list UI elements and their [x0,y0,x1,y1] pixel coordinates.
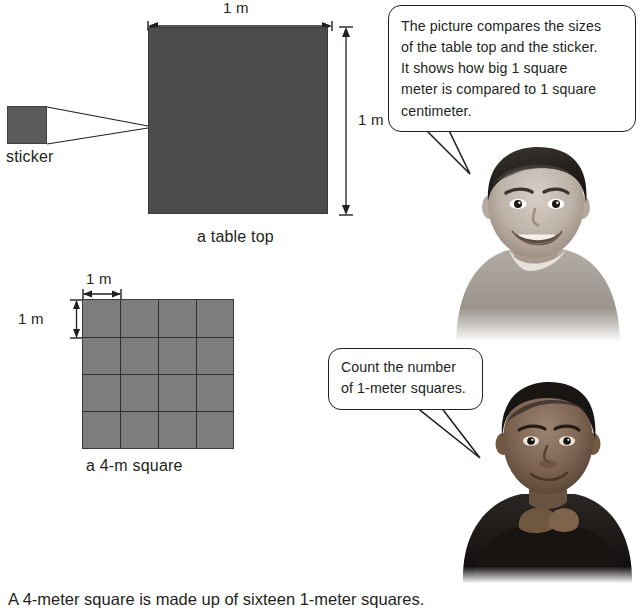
speech-bubble-one-line-3: It shows how big 1 square [401,58,624,79]
bottom-summary-sentence: A 4-meter square is made up of sixteen 1… [8,590,424,609]
speech-bubble-one-line-1: The picture compares the sizes [401,16,624,37]
grid-line-horizontal [83,374,233,375]
four-meter-square-caption: a 4-m square [86,457,183,475]
speech-bubble-two-line-2: of 1-meter squares. [341,378,472,399]
grid-cell-width-label: 1 m [86,271,112,288]
speech-bubble-one-line-5: centimeter. [401,101,624,122]
table-top-square [148,27,328,214]
table-top-caption: a table top [197,228,274,246]
speech-bubble-one: The picture compares the sizes of the ta… [388,5,636,132]
grid-line-horizontal [83,337,233,338]
table-top-height-label: 1 m [358,112,384,129]
grid-cell-height-label: 1 m [18,311,44,328]
sticker-label: sticker [6,148,54,166]
speech-bubble-two: Count the number of 1-meter squares. [328,348,483,410]
worksheet-canvas: 1 m 1 m sticker a table top 1 m 1 m [0,0,640,609]
four-meter-square-grid [82,299,234,449]
speech-bubble-one-line-2: of the table top and the sticker. [401,37,624,58]
speech-bubble-two-line-1: Count the number [341,357,472,378]
speech-bubble-one-line-4: meter is compared to 1 square [401,79,624,100]
table-top-width-label: 1 m [223,0,249,17]
grid-line-horizontal [83,411,233,412]
table-top-height-dimension-arrow [336,22,354,220]
grid-cell-width-dimension-arrow [80,286,124,300]
